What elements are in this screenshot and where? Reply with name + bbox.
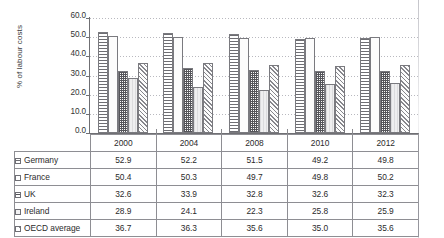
bar-germany-2004 [163,33,173,133]
table-cell-germany-2012: 49.8 [353,152,419,169]
table-cell-ireland-2010: 25.8 [287,203,353,220]
bar-group-2010 [287,18,353,133]
bar-oecd-average-2004 [203,63,213,133]
series-label-text: UK [24,189,36,199]
series-label-text: Germany [24,155,58,165]
table-year-header-2000: 2000 [91,135,157,152]
bar-france-2010 [305,38,315,133]
bar-oecd-average-2008 [269,65,279,133]
y-axis-tick-mark [86,95,90,96]
table-cell-france-2012: 50.2 [353,169,419,186]
y-axis-tick-mark [86,114,90,115]
table-cell-oecd-average-2012: 35.6 [353,220,419,237]
table-cell-germany-2010: 49.2 [287,152,353,169]
bars-layer [90,18,418,133]
table-row: UK32.633.932.832.632.3 [15,186,419,203]
series-label-text: OECD average [24,223,80,233]
y-axis-tick-mark [86,56,90,57]
y-tick-label: 30.0 [52,68,86,77]
bar-uk-2000 [118,71,128,133]
bar-uk-2012 [380,71,390,133]
table-cell-france-2008: 49.7 [222,169,288,186]
table-cell-ireland-2004: 24.1 [156,203,222,220]
y-axis-tick-mark [86,76,90,77]
bar-germany-2000 [98,32,108,133]
table-cell-oecd-average-2000: 36.7 [91,220,157,237]
legend-swatch-icon [15,192,21,198]
legend-swatch-icon [15,209,21,215]
table-cell-uk-2000: 32.6 [91,186,157,203]
table-year-header-2008: 2008 [222,135,288,152]
table-year-header-2004: 2004 [156,135,222,152]
table-corner-cell [15,135,91,152]
table-row: Ireland28.924.122.325.825.9 [15,203,419,220]
table-cell-oecd-average-2008: 35.6 [222,220,288,237]
y-axis-tick-mark [86,18,90,19]
table-cell-oecd-average-2004: 36.3 [156,220,222,237]
table-year-header-2012: 2012 [353,135,419,152]
bar-chart: % of labour costs 60.050.040.030.020.010… [0,0,444,140]
bar-france-2008 [239,38,249,133]
table-cell-france-2004: 50.3 [156,169,222,186]
bar-france-2012 [370,37,380,133]
table-cell-ireland-2012: 25.9 [353,203,419,220]
bar-group-2012 [352,18,418,133]
bar-france-2004 [173,37,183,133]
bar-uk-2008 [249,70,259,133]
bar-group-2008 [221,18,287,133]
table-cell-ireland-2008: 22.3 [222,203,288,220]
table-cell-germany-2000: 52.9 [91,152,157,169]
table-cell-germany-2004: 52.2 [156,152,222,169]
y-tick-label: 40.0 [52,49,86,58]
bar-france-2000 [108,36,118,133]
table-cell-uk-2008: 32.8 [222,186,288,203]
bar-germany-2010 [295,39,305,133]
bar-germany-2008 [229,34,239,133]
table-row: OECD average36.736.335.635.035.6 [15,220,419,237]
y-tick-label: 20.0 [52,87,86,96]
table-cell-france-2010: 49.8 [287,169,353,186]
table-header-row: 20002004200820102012 [15,135,419,152]
y-tick-label: 10.0 [52,106,86,115]
table-cell-uk-2010: 32.6 [287,186,353,203]
table-row: France50.450.349.749.850.2 [15,169,419,186]
table-series-label-oecd-average: OECD average [15,220,91,237]
table-row: Germany52.952.251.549.249.8 [15,152,419,169]
table-series-label-france: France [15,169,91,186]
bar-ireland-2000 [128,78,138,133]
y-axis-tick-mark [86,37,90,38]
data-table: 20002004200820102012 Germany52.952.251.5… [14,134,419,237]
bar-uk-2010 [315,71,325,133]
series-label-text: Ireland [24,206,49,216]
bar-ireland-2012 [390,83,400,133]
bar-oecd-average-2012 [400,65,410,133]
y-axis-tick-labels: 60.050.040.030.020.010.00.0 [52,14,86,134]
y-axis-title: % of labour costs [15,15,24,99]
bar-uk-2004 [183,68,193,133]
table-series-label-uk: UK [15,186,91,203]
legend-swatch-icon [15,158,21,164]
bar-oecd-average-2000 [138,63,148,133]
table-cell-germany-2008: 51.5 [222,152,288,169]
table-cell-france-2000: 50.4 [91,169,157,186]
bar-ireland-2010 [325,84,335,133]
table-year-header-2010: 2010 [287,135,353,152]
bar-ireland-2008 [259,90,269,133]
table-series-label-germany: Germany [15,152,91,169]
legend-swatch-icon [15,175,21,181]
table-cell-uk-2012: 32.3 [353,186,419,203]
bar-germany-2012 [360,38,370,133]
bar-oecd-average-2010 [335,66,345,133]
table-cell-uk-2004: 33.9 [156,186,222,203]
series-label-text: France [24,172,50,182]
table-body: Germany52.952.251.549.249.8France50.450.… [15,152,419,237]
y-tick-label: 60.0 [52,11,86,20]
table-cell-oecd-average-2010: 35.0 [287,220,353,237]
table-series-label-ireland: Ireland [15,203,91,220]
bar-ireland-2004 [193,87,203,133]
legend-swatch-icon [15,226,21,232]
bar-group-2000 [90,18,156,133]
table-cell-ireland-2000: 28.9 [91,203,157,220]
y-tick-label: 50.0 [52,30,86,39]
bar-group-2004 [156,18,222,133]
